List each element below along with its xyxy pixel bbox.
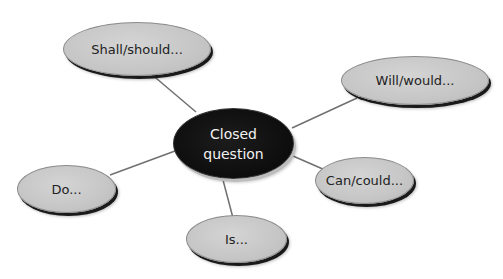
connector-can [293,156,325,170]
connector-shall [150,73,196,112]
node-is: Is... [186,215,287,263]
node-label: Shall/should... [91,42,183,57]
node-label: Can/could... [326,173,403,188]
connector-will [292,98,357,128]
node-label: Do... [51,182,81,197]
node-can-could: Can/could... [315,157,414,204]
center-label: Closed question [203,124,263,164]
node-shall-should: Shall/should... [63,22,211,76]
connector-is [223,180,233,218]
node-label: Is... [225,232,248,247]
node-will-would: Will/would... [341,56,489,105]
node-do: Do... [17,165,116,213]
node-label: Will/would... [376,73,455,88]
connector-do [110,151,175,175]
node-closed-question: Closed question [173,108,294,179]
